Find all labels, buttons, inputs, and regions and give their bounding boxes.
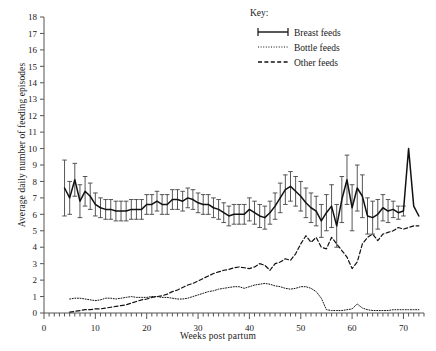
y-tick-label: 12 <box>28 111 37 121</box>
y-tick-label: 3 <box>33 259 38 269</box>
y-tick-label: 5 <box>33 226 38 236</box>
y-tick-label: 17 <box>28 29 38 39</box>
y-tick-label: 14 <box>28 78 38 88</box>
series-line-breast-feeds <box>65 149 419 226</box>
y-tick-label: 7 <box>33 193 38 203</box>
y-tick-label: 0 <box>33 308 38 318</box>
y-tick-label: 15 <box>28 62 38 72</box>
y-tick-label: 6 <box>33 210 38 220</box>
legend-item-other-feeds: Other feeds <box>294 58 338 68</box>
y-tick-label: 2 <box>33 275 38 285</box>
y-axis-label: Average daily number of feeding episodes <box>17 30 27 260</box>
y-tick-label: 9 <box>33 160 38 170</box>
figure: 0123456789101112131415161718010203040506… <box>0 0 436 351</box>
y-tick-label: 13 <box>28 94 38 104</box>
x-axis-label: Weeks post partum <box>0 331 436 341</box>
y-tick-label: 1 <box>33 292 38 302</box>
legend-title: Key: <box>250 8 268 18</box>
chart-canvas: 0123456789101112131415161718010203040506… <box>0 0 436 351</box>
y-tick-label: 10 <box>28 144 38 154</box>
y-tick-label: 11 <box>28 127 37 137</box>
legend-item-bottle-feeds: Bottle feeds <box>294 43 340 53</box>
series-line-other-feeds <box>70 226 419 312</box>
legend-item-breast-feeds: Breast feeds <box>294 28 341 38</box>
y-tick-label: 18 <box>28 12 38 22</box>
y-tick-label: 4 <box>33 242 38 252</box>
y-tick-label: 16 <box>28 45 38 55</box>
series-line-bottle-feeds <box>70 283 419 310</box>
y-tick-label: 8 <box>33 177 38 187</box>
